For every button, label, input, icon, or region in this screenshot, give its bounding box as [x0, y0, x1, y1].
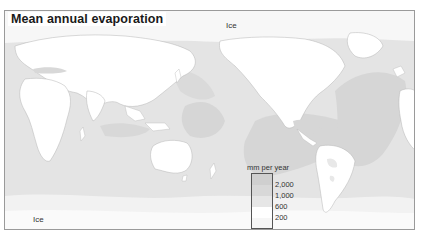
legend-break-1000: 1,000	[275, 191, 294, 200]
legend-swatch-under-200	[252, 218, 272, 228]
legend-break-2000: 2,000	[275, 180, 294, 189]
map-frame: Ice Ice mm per year 2,000 1,000 600 200	[4, 10, 415, 230]
legend-break-200: 200	[275, 213, 288, 222]
world-map	[5, 11, 415, 230]
legend-break-600: 600	[275, 202, 288, 211]
legend-swatches	[251, 173, 273, 229]
ice-label-north: Ice	[226, 21, 237, 30]
map-title: Mean annual evaporation	[8, 12, 166, 26]
legend-title: mm per year	[247, 163, 289, 172]
ice-label-south: Ice	[33, 215, 44, 224]
